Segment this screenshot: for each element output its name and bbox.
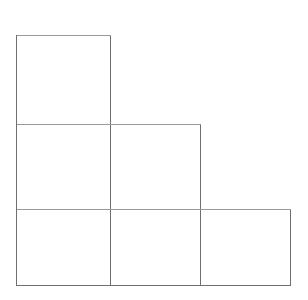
grid-row	[17, 210, 291, 286]
grid-cell-cell-r3c1	[17, 210, 111, 286]
grid-cell-cell-r3c3	[201, 210, 291, 286]
grid-cell-cell-r1c1	[17, 36, 111, 125]
grid-cell-cell-r2c2	[111, 125, 201, 210]
figure-canvas	[0, 0, 308, 300]
grid-row	[17, 125, 201, 210]
cells-layer	[17, 36, 291, 286]
staircase-grid-figure	[0, 0, 308, 300]
grid-cell-cell-r3c2	[111, 210, 201, 286]
grid-row	[17, 36, 111, 125]
grid-cell-cell-r2c1	[17, 125, 111, 210]
